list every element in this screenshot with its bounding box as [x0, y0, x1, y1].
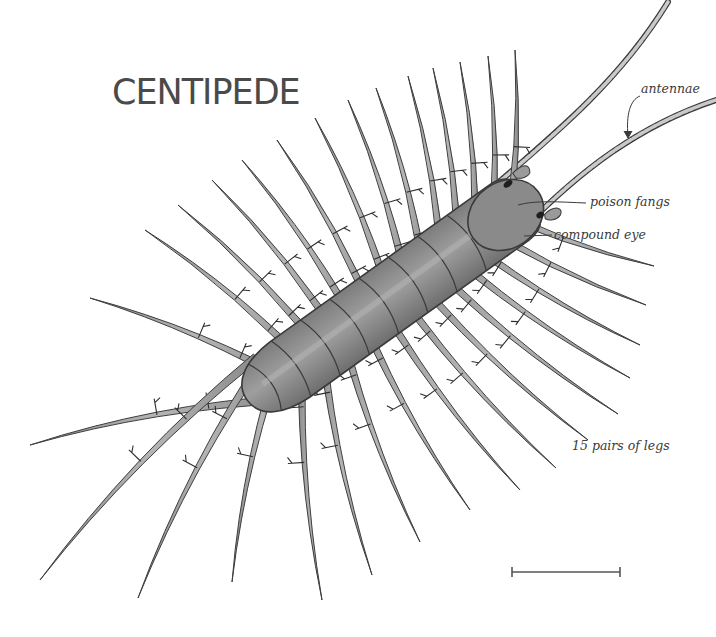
- centipede-drawing: [0, 0, 716, 637]
- label-compound-eye: compound eye: [554, 227, 646, 242]
- centipede-illustration: CENTIPEDE antennae poison fangs compound…: [0, 0, 716, 637]
- scale-bar: [512, 567, 620, 577]
- label-poison-fangs: poison fangs: [590, 194, 670, 209]
- label-antennae: antennae: [641, 81, 700, 96]
- label-leg-count: 15 pairs of legs: [572, 438, 670, 453]
- page-title: CENTIPEDE: [112, 72, 300, 112]
- leg: [40, 354, 259, 580]
